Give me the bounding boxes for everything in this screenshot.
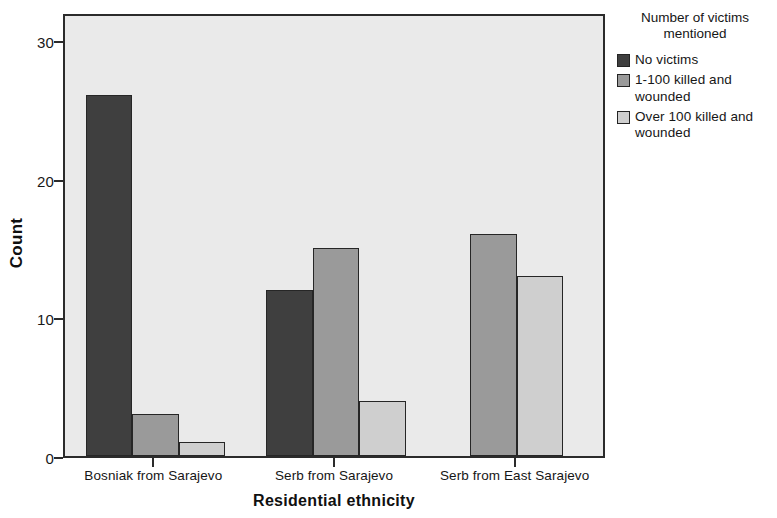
bar xyxy=(359,401,406,457)
bar xyxy=(266,290,313,457)
x-axis-tick-label: Serb from Sarajevo xyxy=(275,468,393,483)
legend-title-line-1: Number of victims xyxy=(617,10,773,26)
y-axis-tick-label: 0 xyxy=(45,450,54,467)
x-axis-labels: Bosniak from SarajevoSerb from SarajevoS… xyxy=(63,468,605,488)
legend-item-label: Over 100 killed and wounded xyxy=(635,109,777,143)
y-axis-title: Count xyxy=(2,178,32,308)
bar xyxy=(86,95,133,456)
y-axis-tick-label: 30 xyxy=(37,33,54,50)
bar xyxy=(313,248,360,456)
legend-item: No victims xyxy=(617,52,777,69)
legend-swatch-icon xyxy=(617,54,630,67)
x-axis-tick-label: Serb from East Sarajevo xyxy=(440,468,589,483)
legend-swatch-icon xyxy=(617,74,630,87)
x-axis-tick-label: Bosniak from Sarajevo xyxy=(84,468,222,483)
legend-item: Over 100 killed and wounded xyxy=(617,109,777,143)
y-axis-tick-mark xyxy=(54,457,63,459)
bar xyxy=(132,414,179,456)
legend-item-label: 1-100 killed and wounded xyxy=(635,72,777,106)
bar xyxy=(470,234,517,456)
legend: Number of victims mentioned No victims1-… xyxy=(617,10,777,145)
plot-area xyxy=(63,14,605,458)
bar xyxy=(179,442,226,456)
y-axis-tick-mark xyxy=(54,41,63,43)
x-axis-tick-mark xyxy=(514,458,516,467)
y-axis-tick-mark xyxy=(54,318,63,320)
bars-layer xyxy=(65,16,603,456)
x-axis-title: Residential ethnicity xyxy=(63,492,605,510)
bar xyxy=(517,276,564,456)
legend-title-line-2: mentioned xyxy=(617,26,773,42)
y-axis-tick-label: 10 xyxy=(37,311,54,328)
legend-swatch-icon xyxy=(617,111,630,124)
legend-item-label: No victims xyxy=(635,52,698,69)
legend-items: No victims1-100 killed and woundedOver 1… xyxy=(617,52,777,142)
bar-chart-figure: 0102030 Count Bosniak from SarajevoSerb … xyxy=(0,0,777,518)
legend-title: Number of victims mentioned xyxy=(617,10,777,43)
x-axis-tick-mark xyxy=(333,458,335,467)
y-axis-tick-mark xyxy=(54,180,63,182)
x-axis-tick-mark xyxy=(152,458,154,467)
legend-item: 1-100 killed and wounded xyxy=(617,72,777,106)
y-axis-title-label: Count xyxy=(7,218,27,269)
y-axis-tick-label: 20 xyxy=(37,172,54,189)
